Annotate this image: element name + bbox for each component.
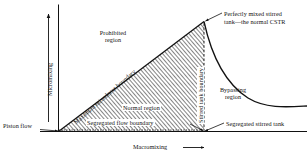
x-axis-label: Macromixing bbox=[133, 143, 167, 150]
normal-region-label: Normal region bbox=[122, 104, 161, 111]
prohibited-region-label-line1: Prohibited bbox=[100, 29, 126, 36]
piston-flow-leader bbox=[40, 130, 58, 132]
segregated-stirred-tank-label: Segregated stirred tank bbox=[226, 120, 284, 127]
segregated-stirred-tank-leader bbox=[205, 123, 224, 131]
cstr-leader bbox=[206, 13, 223, 21]
prohibited-region-label-line2: region bbox=[105, 36, 121, 43]
y-axis-label: Micromixing bbox=[46, 63, 53, 96]
bypassing-region-label: Bypassing region bbox=[212, 86, 254, 101]
bypassing-region-label-line2: region bbox=[225, 93, 241, 100]
cstr-label-line1: Perfectly mixed stirred bbox=[224, 10, 282, 17]
prohibited-region-label: Prohibited region bbox=[89, 29, 137, 44]
piston-flow-label: Piston flow bbox=[3, 122, 32, 129]
stirred-tank-boundary-label: Stirred tank boundary bbox=[197, 67, 204, 124]
cstr-label-line2: tank—the normal CSTR bbox=[224, 18, 286, 25]
bypassing-region-label-line1: Bypassing bbox=[220, 86, 246, 93]
segregated-flow-boundary-label: Segregated flow boundary bbox=[86, 119, 155, 126]
mixing-regime-diagram: Prohibited region Perfectly mixed stirre… bbox=[0, 0, 307, 154]
